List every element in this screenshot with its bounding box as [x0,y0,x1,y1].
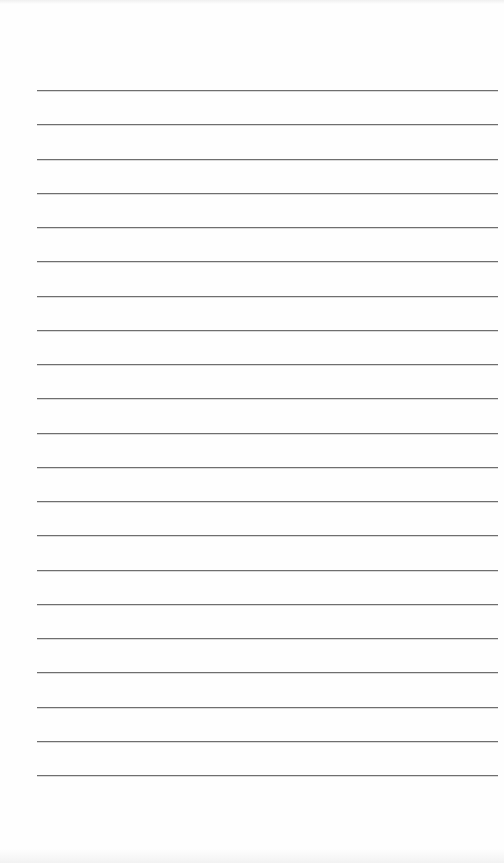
ruled-line [37,261,498,262]
ruled-line [37,501,498,502]
page-top-edge [0,0,504,4]
ruled-line [37,775,498,776]
ruled-line [37,707,498,708]
ruled-line [37,638,498,639]
ruled-line [37,364,498,365]
lined-paper-page [0,0,504,863]
ruled-line [37,741,498,742]
ruled-line [37,535,498,536]
ruled-line [37,604,498,605]
ruled-line [37,433,498,434]
ruled-line [37,296,498,297]
ruled-line [37,330,498,331]
ruled-line [37,570,498,571]
ruled-line [37,227,498,228]
ruled-line [37,90,498,91]
ruled-line [37,159,498,160]
ruled-line [37,193,498,194]
ruled-line [37,672,498,673]
page-bottom-edge [0,849,504,863]
ruled-line [37,124,498,125]
ruled-line [37,467,498,468]
ruled-line [37,398,498,399]
